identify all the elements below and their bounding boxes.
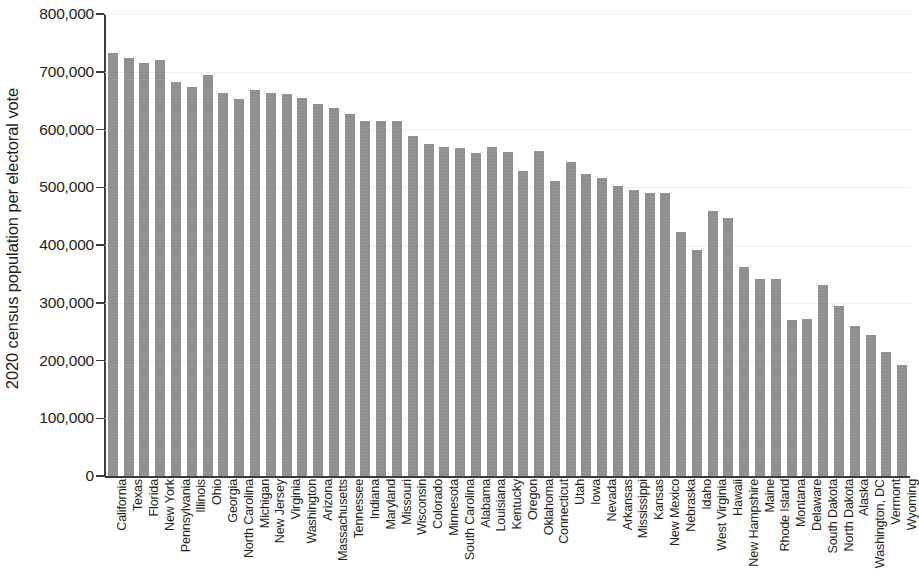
x-axis-tick-label: Ohio	[212, 479, 223, 505]
bar	[881, 352, 891, 476]
bar	[834, 306, 844, 476]
bar	[550, 181, 560, 476]
x-axis-tick-label: Nevada	[607, 479, 618, 522]
x-axis-tick-label: West Virginia	[717, 479, 728, 551]
x-axis-tick-label-text: California	[117, 479, 128, 531]
bar	[203, 75, 213, 476]
y-axis-tick-mark	[96, 244, 104, 246]
x-axis-tick-label-text: Idaho	[702, 479, 713, 510]
bar	[297, 98, 307, 476]
x-axis-tick-label: Rhode Island	[780, 479, 791, 551]
x-axis-tick-label: New Jersey	[275, 479, 286, 543]
x-axis-tick-label: Kansas	[654, 479, 665, 520]
y-axis-tick-label: 0	[4, 467, 94, 485]
bar	[518, 171, 528, 476]
x-axis-tick-label: New Mexico	[670, 479, 681, 546]
x-axis-tick-label: North Dakota	[844, 479, 855, 551]
x-axis-tick-label: Tennessee	[354, 479, 365, 539]
bar	[392, 121, 402, 476]
x-axis-tick-label-text: Oregon	[528, 479, 539, 520]
x-axis-tick-label-text: Ohio	[212, 479, 223, 505]
bar	[218, 93, 228, 476]
y-axis-tick-mark	[96, 418, 104, 420]
y-axis-tick-mark	[96, 129, 104, 131]
y-axis-tick-group: 0100,000200,000300,000400,000500,000600,…	[0, 0, 94, 584]
x-axis-tick-label-text: Illinois	[196, 479, 207, 513]
x-axis-tick-label: Indiana	[370, 479, 381, 519]
x-axis-tick-label: Wisconsin	[417, 479, 428, 535]
x-axis-tick-label-text: Arkansas	[623, 479, 634, 530]
x-axis-tick-label-text: North Carolina	[244, 479, 255, 558]
bar	[613, 186, 623, 476]
x-axis-tick-label-text: Georgia	[228, 479, 239, 523]
x-axis-tick-label: Utah	[575, 479, 586, 505]
x-axis-tick-label: Idaho	[702, 479, 713, 510]
x-axis-tick-label-text: New Jersey	[275, 479, 286, 543]
y-axis-tick-mark	[96, 360, 104, 362]
bar	[897, 365, 907, 476]
x-axis-tick-label: South Carolina	[465, 479, 476, 560]
x-axis-line	[105, 476, 910, 478]
bar	[802, 319, 812, 476]
bar	[455, 148, 465, 476]
x-axis-tick-label: Texas	[133, 479, 144, 511]
x-axis-tick-label: Michigan	[260, 479, 271, 528]
x-axis-tick-label: South Dakota	[828, 479, 839, 554]
x-axis-tick-label-text: Virginia	[291, 479, 302, 520]
bar	[124, 58, 134, 476]
x-axis-tick-label-text: Michigan	[260, 479, 271, 528]
x-axis-tick-label-text: Vermont	[891, 479, 902, 525]
gridline	[105, 14, 910, 15]
x-axis-tick-label: California	[117, 479, 128, 531]
x-axis-tick-label: Alaska	[859, 479, 870, 516]
bar	[692, 250, 702, 476]
y-axis-tick-label: 600,000	[4, 121, 94, 139]
y-axis-tick-label: 700,000	[4, 63, 94, 81]
x-axis-tick-label: Arizona	[323, 479, 334, 521]
x-axis-tick-label: Alabama	[481, 479, 492, 528]
x-axis-tick-label-text: Connecticut	[559, 479, 570, 544]
y-axis-tick-mark	[96, 71, 104, 73]
bar	[424, 144, 434, 476]
x-axis-tick-label: Minnesota	[449, 479, 460, 536]
x-axis-tick-label: Connecticut	[559, 479, 570, 544]
x-axis-tick-label: Montana	[796, 479, 807, 527]
bar	[581, 174, 591, 476]
x-axis-tick-label-text: Indiana	[370, 479, 381, 519]
x-axis-tick-label: Massachusetts	[338, 479, 349, 561]
x-axis-tick-label-text: Colorado	[433, 479, 444, 529]
bar	[676, 232, 686, 476]
x-axis-tick-label-text: Massachusetts	[338, 479, 349, 561]
x-axis-tick-label-text: New Mexico	[670, 479, 681, 546]
x-axis-tick-label-text: Texas	[133, 479, 144, 511]
x-axis-tick-label: Nebraska	[686, 479, 697, 532]
bar	[250, 90, 260, 476]
bar	[108, 53, 118, 476]
x-axis-tick-label-text: New York	[165, 479, 176, 531]
bar	[171, 82, 181, 476]
x-axis-tick-label-text: Utah	[575, 479, 586, 505]
x-axis-tick-label-text: Mississippi	[638, 479, 649, 538]
bar	[739, 267, 749, 476]
x-axis-tick-label-text: Washington, DC	[875, 479, 886, 568]
bar	[660, 193, 670, 476]
bar	[787, 320, 797, 477]
x-axis-tick-label: Washington	[307, 479, 318, 544]
bar	[755, 279, 765, 476]
bar	[266, 93, 276, 476]
bar	[408, 136, 418, 476]
y-axis-tick-mark	[96, 302, 104, 304]
x-axis-tick-label-text: Pennsylvania	[181, 479, 192, 552]
bar	[155, 60, 165, 476]
x-axis-tick-label-text: West Virginia	[717, 479, 728, 551]
x-axis-tick-label: Maine	[765, 479, 776, 513]
x-axis-label-group: CaliforniaTexasFloridaNew YorkPennsylvan…	[105, 479, 910, 584]
y-axis-tick-mark	[96, 475, 104, 477]
x-axis-tick-label-text: Minnesota	[449, 479, 460, 536]
x-axis-tick-label-text: Louisiana	[496, 479, 507, 532]
x-axis-tick-label-text: Hawaii	[733, 479, 744, 516]
x-axis-tick-label-text: Delaware	[812, 479, 823, 531]
x-axis-tick-label-text: Oklahoma	[544, 479, 555, 535]
x-axis-tick-label: Kentucky	[512, 479, 523, 530]
y-axis-tick-label: 100,000	[4, 409, 94, 427]
